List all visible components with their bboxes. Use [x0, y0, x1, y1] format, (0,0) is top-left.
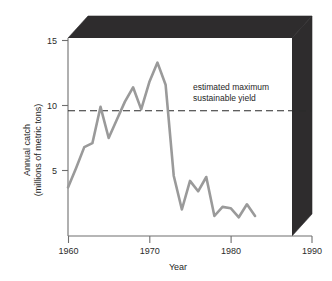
- x-tick-label-1970: 1970: [140, 246, 160, 256]
- annotation-line2: sustainable yield: [193, 93, 256, 103]
- y-axis-title-line2: (millions of metric tons): [33, 104, 43, 197]
- y-tick-label-5: 5: [52, 166, 57, 176]
- chart-figure: 15 10 5 1960 1970 1980 1990 Year Annual …: [0, 0, 332, 281]
- x-axis-title: Year: [169, 262, 187, 272]
- y-tick-label-10: 10: [47, 101, 57, 111]
- x-tick-label-1990: 1990: [302, 246, 322, 256]
- fisheries-line-chart: 15 10 5 1960 1970 1980 1990 Year Annual …: [0, 0, 332, 281]
- x-tick-label-1960: 1960: [58, 246, 78, 256]
- box-right-face: [292, 16, 312, 236]
- y-tick-label-15: 15: [47, 36, 57, 46]
- annotation-line1: estimated maximum: [193, 82, 269, 92]
- x-tick-label-1980: 1980: [221, 246, 241, 256]
- y-axis-title-line1: Annual catch: [22, 124, 32, 176]
- box-top-face: [68, 16, 312, 38]
